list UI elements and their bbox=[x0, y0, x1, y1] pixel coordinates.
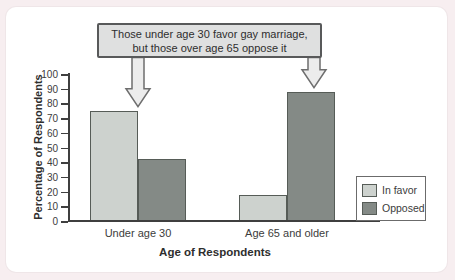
legend-item-in-favor: In favor bbox=[362, 181, 425, 199]
x-axis-title: Age of Respondents bbox=[159, 246, 271, 258]
annotation-text-line-2: but those over age 65 oppose it bbox=[99, 42, 320, 56]
bar-opposed-age-65-and-older bbox=[287, 92, 335, 221]
annotation-text-line-1: Those under age 30 favor gay marriage, bbox=[99, 28, 320, 42]
y-axis-title: Percentage of Respondents bbox=[32, 74, 44, 219]
y-tick bbox=[61, 133, 68, 135]
y-tick bbox=[61, 192, 68, 194]
bar-in-favor-under-age-30 bbox=[90, 111, 138, 221]
legend-swatch-in-favor bbox=[362, 184, 377, 197]
legend: In favorOpposed bbox=[356, 176, 426, 221]
y-axis-line bbox=[68, 73, 70, 222]
y-tick bbox=[61, 89, 68, 91]
figure-root: Those under age 30 favor gay marriage, b… bbox=[0, 0, 455, 280]
y-tick bbox=[61, 162, 68, 164]
y-tick bbox=[61, 118, 68, 120]
x-category-label: Under age 30 bbox=[105, 227, 172, 239]
legend-swatch-opposed bbox=[362, 202, 377, 215]
x-category-label: Age 65 and older bbox=[245, 227, 329, 239]
y-tick bbox=[61, 206, 68, 208]
y-tick bbox=[61, 177, 68, 179]
legend-label: In favor bbox=[382, 184, 417, 196]
legend-item-opposed: Opposed bbox=[362, 199, 425, 217]
y-tick bbox=[61, 103, 68, 105]
y-tick bbox=[61, 148, 68, 150]
y-tick bbox=[61, 74, 68, 76]
bar-opposed-under-age-30 bbox=[138, 159, 186, 221]
bar-in-favor-age-65-and-older bbox=[239, 195, 287, 221]
x-axis-line bbox=[68, 220, 380, 222]
legend-label: Opposed bbox=[382, 202, 425, 214]
y-tick bbox=[61, 221, 68, 223]
annotation-callout: Those under age 30 favor gay marriage, b… bbox=[97, 23, 322, 58]
